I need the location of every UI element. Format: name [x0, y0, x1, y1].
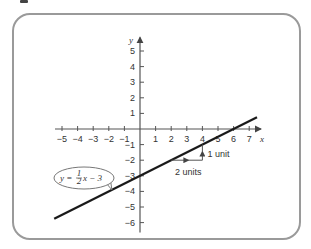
rise-label: 1 unit — [207, 149, 230, 159]
x-tick-label: 2 — [169, 134, 174, 144]
x-tick-label: −3 — [88, 134, 98, 144]
x-axis-label: x — [259, 134, 264, 144]
y-tick-label: −2 — [125, 155, 135, 165]
x-tick-label: 3 — [184, 134, 189, 144]
y-tick-label: −4 — [125, 186, 135, 196]
x-tick-label: −4 — [72, 134, 82, 144]
x-tick-label: −2 — [104, 134, 114, 144]
coordinate-plane: −5−4−3−2−11234567x 54321−1−2−3−4−5−6y 1 … — [0, 0, 311, 249]
slope-annotation: 1 unit2 units — [171, 145, 230, 177]
callout-frac-den: 2 — [77, 176, 82, 186]
run-label: 2 units — [175, 167, 202, 177]
y-tick-label: 4 — [130, 62, 135, 72]
y-tick-label: 1 — [130, 108, 135, 118]
callout-eq-right: x − 3 — [82, 173, 103, 183]
y-tick-label: 5 — [130, 46, 135, 56]
x-tick-label: 6 — [231, 134, 236, 144]
y-axis-label: y — [128, 35, 133, 45]
y-tick-label: −5 — [125, 202, 135, 212]
y-tick-label: 3 — [130, 77, 135, 87]
equation-callout: y = 12x − 3 — [54, 167, 114, 190]
y-tick-label: −1 — [125, 140, 135, 150]
callout-eq-left: y = — [59, 173, 72, 183]
x-tick-label: 1 — [153, 134, 158, 144]
y-tick-label: −6 — [125, 218, 135, 228]
x-tick-label: −5 — [57, 134, 67, 144]
x-tick-label: 7 — [247, 134, 252, 144]
y-tick-label: 2 — [130, 93, 135, 103]
